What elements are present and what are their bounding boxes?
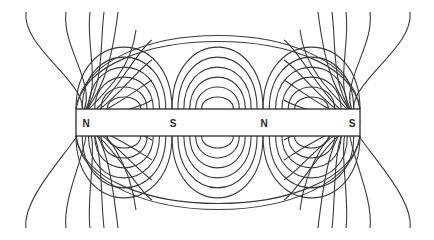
pole-label-s2: S xyxy=(349,118,356,129)
pole-label-n1: N xyxy=(82,118,89,129)
field-lines-diagram xyxy=(0,0,434,240)
pole-label-n2: N xyxy=(260,118,267,129)
pole-label-s1: S xyxy=(170,118,177,129)
magnet-bar xyxy=(76,109,360,136)
